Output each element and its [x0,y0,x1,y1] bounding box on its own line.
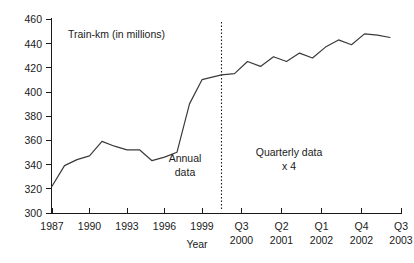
y-tick-label: 400 [24,86,42,98]
quarterly-data-label-line1: Quarterly data [256,146,323,158]
x-tick-label-year: 2001 [270,234,294,246]
y-tick-label: 460 [24,13,42,25]
y-tick-label: 320 [24,183,42,195]
x-tick-label: 1990 [78,220,102,232]
x-tick-label-year: 2003 [389,234,413,246]
x-tick-label: 1987 [40,220,64,232]
x-tick-label: Q3 [394,220,408,232]
x-tick-label: Q3 [234,220,248,232]
chart-title-group: Train-km (in millions) [68,28,165,40]
x-tick-label: Q1 [314,220,328,232]
quarterly-data-label-line2: x 4 [282,160,296,172]
y-tick-label: 300 [24,207,42,219]
x-tick-label: 1999 [190,220,214,232]
x-tick-label-year: 2002 [350,234,374,246]
annual-data-label-line1: Annual [169,152,202,164]
x-axis-title: Year [186,238,208,250]
y-tick-label: 420 [24,62,42,74]
x-tick-label: 1993 [115,220,139,232]
x-tick-label: 1996 [153,220,177,232]
x-tick-label-year: 2002 [310,234,334,246]
y-tick-label: 380 [24,110,42,122]
page-title: Train-km (in millions) [68,28,165,40]
annual-data-label-line2: data [175,166,196,178]
y-tick-label: 340 [24,159,42,171]
x-tick-label: Q4 [354,220,368,232]
line-chart: 460 440 420 400 380 360 340 320 300 [0,0,414,263]
y-tick-label: 360 [24,134,42,146]
x-tick-label-year: 2000 [230,234,254,246]
y-axis-tick-labels: 460 440 420 400 380 360 340 320 300 [24,13,42,219]
y-tick-label: 440 [24,38,42,50]
chart-container: 460 440 420 400 380 360 340 320 300 [0,0,414,263]
x-tick-label: Q2 [274,220,288,232]
